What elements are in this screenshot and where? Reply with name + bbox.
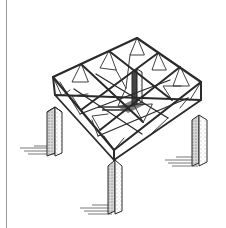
pillar-front (108, 160, 122, 214)
pillar-right (192, 115, 207, 166)
space-frame (53, 38, 201, 160)
space-frame-illustration (0, 0, 226, 228)
top-chord-perimeter (53, 38, 201, 150)
pillar-left (47, 107, 62, 156)
